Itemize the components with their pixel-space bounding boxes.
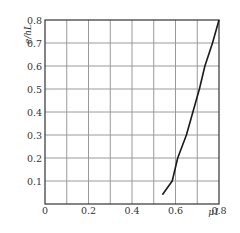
x-tick-label: 0.4 xyxy=(124,205,139,216)
y-tick-label: 0.5 xyxy=(27,84,42,95)
y-tick-label: 0.1 xyxy=(27,176,42,187)
x-tick-labels: 00.20.40.60.8 xyxy=(42,205,227,216)
y-tick-label: 0.2 xyxy=(27,153,42,164)
y-tick-label: 0.8 xyxy=(27,15,42,26)
data-curve xyxy=(162,20,219,195)
x-axis-label: μ1 xyxy=(208,207,220,217)
x-tick-label: 0 xyxy=(42,205,48,216)
y-tick-label: 0.3 xyxy=(27,130,42,141)
y-axis-label: e/hL xyxy=(23,24,33,44)
x-tick-label: 0.2 xyxy=(81,205,96,216)
x-tick-label: 0.6 xyxy=(168,205,183,216)
y-tick-label: 0.4 xyxy=(27,107,42,118)
chart: 00.20.40.60.8 0.10.20.30.40.50.60.70.8 μ… xyxy=(0,0,240,233)
y-tick-label: 0.6 xyxy=(27,61,42,72)
